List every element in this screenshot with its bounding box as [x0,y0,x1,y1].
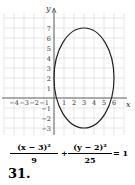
x-tick-label: 2 [72,99,76,107]
equals-one: = 1 [113,148,128,158]
term1-denominator: 9 [10,154,58,165]
term2-fraction: (y − 2)² 25 [68,142,112,165]
equation: (x − 3)² 9 + (y − 2)² 25 = 1 [10,142,135,164]
y-tick-label: 5 [47,45,51,53]
term1-fraction: (x − 3)² 9 [10,142,58,165]
x-axis-label: x [126,100,131,109]
y-tick-label: 2 [47,75,51,83]
ellipse-graph: xy−4−3−2−1123456−3−2−11234567 [0,0,135,140]
plus-sign: + [61,148,68,158]
y-tick-label: 4 [47,55,51,63]
x-tick-label: 1 [62,99,66,107]
term1-numerator: (x − 3)² [10,142,58,154]
y-tick-label: 3 [47,65,51,73]
term2-numerator: (y − 2)² [68,142,112,154]
y-tick-label: 6 [47,35,51,43]
problem-number: 31. [8,166,31,181]
x-tick-label: −4 [9,99,19,107]
x-tick-label: −3 [19,99,29,107]
x-tick-label: 4 [92,99,96,107]
term2-denominator: 25 [68,154,112,165]
y-tick-label: −2 [41,115,51,123]
y-tick-label: 1 [47,85,51,93]
y-axis-label: y [45,4,51,13]
x-tick-label: 3 [82,99,86,107]
y-tick-label: −3 [41,125,51,133]
y-tick-label: −1 [41,105,51,113]
x-tick-label: 5 [102,99,106,107]
x-tick-label: 6 [112,99,116,107]
y-tick-label: 7 [47,25,51,33]
grid [4,13,124,135]
x-tick-label: −2 [29,99,39,107]
